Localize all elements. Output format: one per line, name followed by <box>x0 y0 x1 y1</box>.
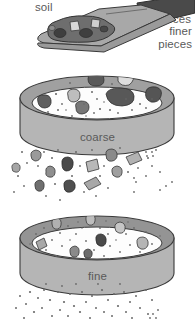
falling-piece-11 <box>12 163 20 172</box>
retained-rock-6 <box>88 73 104 86</box>
retained-rock-7 <box>118 73 133 86</box>
soil-sieving-diagram: soil coarse coarse pieces fine finer pie… <box>0 0 195 324</box>
retained-rock-3 <box>76 101 89 114</box>
trowel-with-soil <box>38 0 195 52</box>
label-fine-sieve: fine <box>0 270 195 283</box>
retained-rock-1 <box>38 95 52 108</box>
fine-retained-6 <box>137 237 148 249</box>
retained-rock-5 <box>146 87 162 102</box>
falling-piece-8 <box>126 152 142 165</box>
fine-retained-7 <box>70 246 79 257</box>
soil-stone-light-2 <box>91 19 100 28</box>
falling-piece-6 <box>106 149 117 161</box>
sieve-coarse-mesh <box>32 87 162 119</box>
falling-piece-1 <box>31 150 41 161</box>
fine-retained-8 <box>84 249 92 258</box>
falling-piece-7 <box>112 166 122 177</box>
soil-stone-dark-2 <box>80 29 93 38</box>
soil-stone-dark-1 <box>54 29 66 38</box>
falling-piece-3 <box>62 157 73 171</box>
soil-stone-mid-1 <box>49 25 55 30</box>
soil-stone-light-1 <box>70 21 80 31</box>
retained-rock-2 <box>68 89 80 102</box>
falling-piece-9 <box>35 180 44 191</box>
falling-piece-10 <box>64 180 75 192</box>
fine-retained-5 <box>96 234 106 246</box>
label-coarse-sieve: coarse <box>0 131 195 144</box>
falling-piece-4 <box>84 177 101 190</box>
soil-stone-dark-3 <box>100 26 108 32</box>
sieve-fine <box>20 214 174 295</box>
falling-piece-2 <box>46 166 55 177</box>
label-soil: soil <box>35 1 53 14</box>
falling-piece-5 <box>86 159 99 172</box>
fine-retained-3 <box>115 222 125 233</box>
